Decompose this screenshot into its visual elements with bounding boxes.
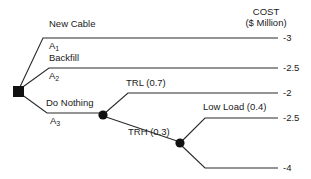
decision-tree-figure: COST ($ Million) New Cable A1 Backfill A… [0,0,311,179]
payoff-new-cable: -3 [283,32,291,43]
alt-sub-1: 1 [55,45,59,52]
label-backfill-alt: A2 [49,70,59,82]
alt-sub-2: 2 [55,75,59,82]
branch-low-load [182,118,278,141]
payoff-backfill: -2.5 [283,62,299,73]
payoff-trl: -2 [283,87,291,98]
branch-high-load [182,146,278,168]
payoff-high-load: -4 [283,162,291,173]
label-do-nothing-alt: A3 [50,115,60,127]
label-backfill: Backfill [49,52,79,63]
cost-header-line1: COST [228,6,304,17]
label-new-cable-alt: A1 [49,40,59,52]
alt-sub-3: 3 [56,120,60,127]
label-trh: TRH (0.3) [128,126,170,137]
decision-node-square [13,86,24,97]
label-low-load: Low Load (0.4) [203,101,266,112]
chance-node-load [175,138,184,147]
label-new-cable: New Cable [49,18,95,29]
cost-header-line2: ($ Million) [228,17,304,28]
chance-node-trl-trh [98,110,107,119]
payoff-low-load: -2.5 [283,112,299,123]
label-trl: TRL (0.7) [126,77,166,88]
label-do-nothing: Do Nothing [46,97,94,108]
